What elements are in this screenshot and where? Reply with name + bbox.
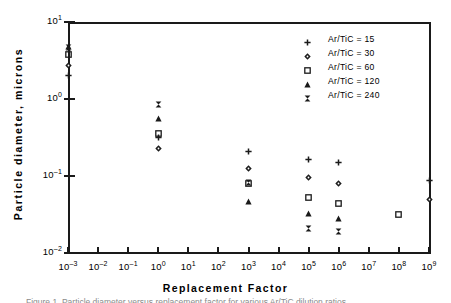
y-tick-label: 101	[20, 15, 62, 26]
y-tick-inner	[70, 175, 75, 177]
x-tick-label: 107	[355, 261, 383, 272]
legend-label: Ar/TiC = 30	[328, 46, 375, 60]
x-tick-label: 101	[174, 261, 202, 272]
diamond-marker-icon	[300, 46, 318, 60]
plus-data-point	[245, 148, 252, 155]
x-tick-label: 109	[415, 261, 443, 272]
diamond-data-point	[155, 145, 162, 152]
plus-data-point	[335, 159, 342, 166]
diamond-data-point	[426, 196, 433, 203]
legend-entry-120: Ar/TiC = 120	[300, 74, 430, 88]
x-tick	[217, 247, 219, 254]
x-tick	[338, 247, 340, 254]
x-tick	[398, 247, 400, 254]
x-tick	[187, 247, 189, 254]
bowtie-data-point	[245, 179, 252, 186]
square-marker-icon	[300, 60, 318, 74]
y-tick-inner	[70, 98, 75, 100]
x-tick-label: 10–2	[84, 261, 112, 272]
x-tick-label: 108	[385, 261, 413, 272]
x-tick-label: 102	[204, 261, 232, 272]
diamond-data-point	[335, 180, 342, 187]
plot-top-border	[68, 22, 431, 24]
y-tick-label: 10–2	[20, 246, 62, 257]
x-tick	[67, 247, 69, 254]
square-data-point	[65, 51, 72, 58]
legend-label: Ar/TiC = 60	[328, 60, 375, 74]
plus-marker-icon	[300, 32, 318, 46]
diamond-data-point	[65, 62, 72, 69]
legend-label: Ar/TiC = 240	[328, 88, 380, 102]
square-data-point	[305, 194, 312, 201]
legend-label: Ar/TiC = 15	[328, 32, 375, 46]
y-tick-label: 10–1	[20, 169, 62, 180]
bowtie-marker-icon	[300, 88, 318, 102]
legend-label: Ar/TiC = 120	[328, 74, 380, 88]
x-tick-label: 104	[265, 261, 293, 272]
legend-entry-30: Ar/TiC = 30	[300, 46, 430, 60]
x-tick-label: 100	[144, 261, 172, 272]
figure-container: Particle diameter, microns Replacement F…	[0, 0, 451, 303]
x-tick-label: 103	[235, 261, 263, 272]
x-tick	[308, 247, 310, 254]
y-tick-label: 100	[20, 92, 62, 103]
diamond-data-point	[245, 165, 252, 172]
legend: Ar/TiC = 15 Ar/TiC = 30 Ar/TiC = 60 Ar/T…	[300, 32, 430, 102]
x-axis-line	[68, 252, 431, 254]
triangle-data-point	[335, 215, 342, 222]
square-data-point	[395, 211, 402, 218]
bowtie-data-point	[155, 101, 162, 108]
plus-data-point	[426, 177, 433, 184]
figure-caption: Figure 1. Particle diameter versus repla…	[26, 297, 436, 303]
square-data-point	[155, 130, 162, 137]
x-tick	[248, 247, 250, 254]
legend-entry-15: Ar/TiC = 15	[300, 32, 430, 46]
x-tick	[368, 247, 370, 254]
x-tick	[97, 247, 99, 254]
x-tick-label: 106	[325, 261, 353, 272]
x-tick	[157, 247, 159, 254]
x-axis-title: Replacement Factor	[0, 282, 451, 294]
triangle-data-point	[155, 115, 162, 122]
legend-entry-240: Ar/TiC = 240	[300, 88, 430, 102]
plus-data-point	[65, 72, 72, 79]
y-tick-inner	[70, 252, 75, 254]
x-tick	[127, 247, 129, 254]
bowtie-data-point	[335, 228, 342, 235]
triangle-data-point	[305, 210, 312, 217]
x-tick	[278, 247, 280, 254]
x-tick-label: 10–1	[114, 261, 142, 272]
legend-entry-60: Ar/TiC = 60	[300, 60, 430, 74]
y-tick-inner	[70, 21, 75, 23]
triangle-marker-icon	[300, 74, 318, 88]
y-axis-title: Particle diameter, microns	[12, 34, 24, 234]
triangle-data-point	[245, 198, 252, 205]
diamond-data-point	[305, 174, 312, 181]
x-tick-label: 105	[295, 261, 323, 272]
bowtie-data-point	[65, 44, 72, 51]
square-data-point	[335, 200, 342, 207]
bowtie-data-point	[305, 225, 312, 232]
x-tick	[428, 247, 430, 254]
x-tick-label: 10–3	[54, 261, 82, 272]
plus-data-point	[305, 156, 312, 163]
